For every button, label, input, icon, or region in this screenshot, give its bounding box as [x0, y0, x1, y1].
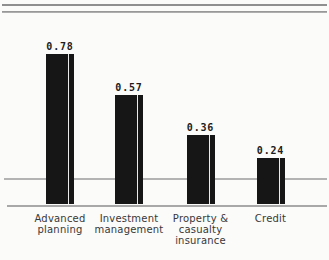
chart-page: 0.780.570.360.24 AdvancedplanningInvestm… — [0, 0, 329, 260]
category-label-line: casualty — [155, 224, 247, 235]
bar — [115, 95, 143, 204]
bar-value-label: 0.57 — [99, 82, 159, 93]
bar — [46, 54, 74, 204]
bar-value-label: 0.36 — [171, 122, 231, 133]
bar-chart: 0.780.570.360.24 AdvancedplanningInvestm… — [0, 0, 329, 260]
bar — [187, 135, 215, 204]
category-label-line: Credit — [225, 213, 317, 224]
bar-value-label: 0.24 — [241, 145, 301, 156]
bar-value-label: 0.78 — [30, 41, 90, 52]
bar — [257, 158, 285, 204]
category-label-line: insurance — [155, 235, 247, 246]
category-label: Credit — [225, 213, 317, 224]
x-axis-baseline — [7, 205, 327, 207]
